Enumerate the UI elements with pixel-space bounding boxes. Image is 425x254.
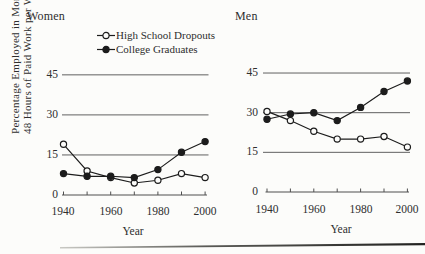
- legend-label-graduates: College Graduates: [116, 43, 198, 55]
- men-xtick-1980: 1980: [344, 202, 378, 216]
- men-xaxis-title: Year: [321, 223, 361, 235]
- women-xtick-1980: 1980: [141, 204, 175, 218]
- women-xaxis-title: Year: [113, 225, 153, 237]
- legend: High School Dropouts College Graduates: [97, 28, 215, 56]
- men-ytick-15: 15: [236, 144, 258, 159]
- women-ytick-0: 0: [36, 187, 58, 202]
- women-chart-title: Women: [27, 9, 65, 24]
- filled-circle-marker-icon: [97, 44, 115, 55]
- dual-line-chart-figure: Percentage Employed in More Than 48 Hour…: [0, 0, 425, 254]
- men-xtick-1940: 1940: [250, 202, 284, 216]
- open-circle-marker-icon: [97, 30, 115, 41]
- women-xtick-1940: 1940: [46, 204, 80, 218]
- men-ytick-30: 30: [236, 105, 258, 120]
- legend-label-dropouts: High School Dropouts: [116, 29, 215, 41]
- men-xtick-2000: 2000: [390, 202, 424, 216]
- men-chart-title: Men: [235, 9, 258, 24]
- women-xtick-2000: 2000: [188, 204, 222, 218]
- men-xtick-1960: 1960: [297, 202, 331, 216]
- women-ytick-30: 30: [36, 107, 58, 122]
- women-xtick-1960: 1960: [94, 204, 128, 218]
- legend-item-graduates: College Graduates: [97, 42, 215, 56]
- men-ytick-0: 0: [236, 184, 258, 199]
- women-ytick-45: 45: [36, 67, 58, 82]
- men-ytick-45: 45: [236, 65, 258, 80]
- legend-item-dropouts: High School Dropouts: [97, 28, 215, 42]
- women-ytick-15: 15: [36, 147, 58, 162]
